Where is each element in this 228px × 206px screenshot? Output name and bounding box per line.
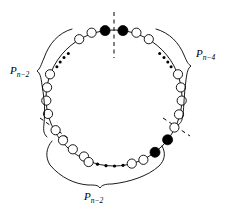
label-left-p-n-minus-2: Pn−2 bbox=[9, 64, 30, 79]
filled-vertices-group bbox=[100, 26, 173, 158]
open-vertex bbox=[176, 83, 185, 92]
open-vertex bbox=[51, 126, 60, 135]
open-vertex bbox=[177, 96, 186, 105]
open-vertex bbox=[68, 145, 77, 154]
brace-left-shape bbox=[37, 29, 72, 137]
label-left-subscript: n−2 bbox=[17, 70, 30, 79]
dashed-lines-group bbox=[40, 12, 190, 138]
open-vertex bbox=[42, 96, 51, 105]
figure-canvas: Pn−2 Pn−4 Pn−2 bbox=[0, 0, 228, 206]
label-right-subscript: n−4 bbox=[203, 53, 216, 62]
open-vertex bbox=[173, 70, 182, 79]
label-right-p-n-minus-4: Pn−4 bbox=[195, 47, 216, 62]
open-vertex bbox=[84, 157, 93, 166]
open-vertex bbox=[144, 35, 153, 44]
open-vertices-group bbox=[42, 28, 187, 168]
brace-right-shape bbox=[156, 29, 191, 125]
open-vertex bbox=[170, 123, 179, 132]
labels-group: Pn−2 Pn−4 Pn−2 bbox=[9, 47, 216, 205]
open-vertex bbox=[43, 83, 52, 92]
diagram-svg: Pn−2 Pn−4 Pn−2 bbox=[0, 0, 228, 206]
filled-vertex bbox=[163, 135, 173, 145]
label-bottom-subscript: n−2 bbox=[91, 196, 104, 205]
open-vertex bbox=[132, 28, 141, 37]
filled-vertex bbox=[100, 26, 110, 36]
filled-vertex bbox=[118, 26, 128, 36]
open-vertex bbox=[45, 70, 54, 79]
open-vertex bbox=[87, 28, 96, 37]
ellipsis-bottom bbox=[96, 163, 125, 168]
filled-vertex bbox=[150, 147, 160, 157]
label-bottom-p-n-minus-2: Pn−2 bbox=[83, 190, 104, 205]
open-vertex bbox=[139, 155, 148, 164]
open-vertex bbox=[75, 35, 84, 44]
open-vertex bbox=[58, 136, 67, 145]
open-vertex bbox=[127, 159, 136, 168]
